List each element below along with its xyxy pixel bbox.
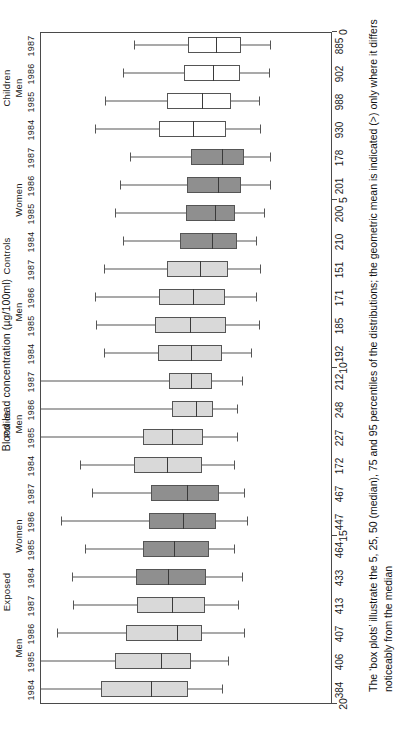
category-label-year: 1984	[26, 456, 36, 477]
whisker-cap-upper	[73, 601, 74, 610]
category-label-year: 1984	[26, 568, 36, 589]
sample-size-label: 413	[334, 598, 345, 615]
median-line	[174, 541, 175, 557]
category-label-year: 1987	[26, 148, 36, 169]
whisker-cap-lower	[264, 209, 265, 218]
sample-size-row: 3844064074134334644474671722272482121921…	[334, 32, 354, 704]
box-plot	[41, 31, 331, 59]
whisker-cap-lower	[234, 461, 235, 470]
box-iqr	[167, 261, 228, 277]
box-iqr	[186, 205, 236, 221]
whisker-cap-upper	[96, 321, 97, 330]
whisker-cap-lower	[244, 629, 245, 638]
sample-size-label: 212	[334, 374, 345, 391]
sample-size-label: 902	[334, 66, 345, 83]
category-label-year: 1986	[26, 176, 36, 197]
sample-size-label: 185	[334, 318, 345, 335]
whisker-cap-lower	[247, 517, 248, 526]
whisker-cap-lower	[242, 377, 243, 386]
median-line	[151, 681, 152, 697]
group-label-secondary: Women	[13, 183, 24, 217]
whisker-cap-lower	[270, 181, 271, 190]
category-label-year: 1984	[26, 120, 36, 141]
box-plot	[41, 283, 331, 311]
whisker-cap-lower	[260, 265, 261, 274]
box-plot	[41, 311, 331, 339]
figure-page: Blood lead concentration (µg/100ml) 1984…	[0, 0, 410, 730]
median-line	[172, 429, 173, 445]
category-label-year: 1987	[26, 484, 36, 505]
sample-size-label: 201	[334, 178, 345, 195]
box-iqr	[158, 345, 222, 361]
box-plot	[41, 199, 331, 227]
whisker-cap-lower	[251, 349, 252, 358]
sample-size-label: 384	[334, 682, 345, 699]
box-iqr	[191, 149, 244, 165]
whisker-cap-upper	[95, 125, 96, 134]
box-iqr	[136, 569, 206, 585]
sample-size-label: 172	[334, 458, 345, 475]
whisker-cap-upper	[120, 181, 121, 190]
box-iqr	[180, 233, 237, 249]
whisker-cap-upper	[61, 517, 62, 526]
median-line	[200, 261, 201, 277]
whisker-cap-upper	[85, 545, 86, 554]
box-plot	[41, 143, 331, 171]
box-plot	[41, 507, 331, 535]
whisker-cap-lower	[270, 153, 271, 162]
box-plot	[41, 339, 331, 367]
box-iqr	[151, 485, 220, 501]
whisker-cap-upper	[123, 237, 124, 246]
group-label-secondary: Men	[13, 78, 24, 97]
category-label-year: 1986	[26, 400, 36, 421]
sample-size-label: 171	[334, 290, 345, 307]
box-iqr	[172, 401, 213, 417]
whisker-cap-lower	[269, 69, 270, 78]
sample-size-label: 464	[334, 542, 345, 559]
box-iqr	[137, 597, 204, 613]
median-line	[212, 233, 213, 249]
plot-area	[40, 32, 332, 704]
category-axis: 1984198519861987198419851986198719841985…	[0, 32, 40, 704]
whisker-cap-upper	[80, 461, 81, 470]
box-iqr	[134, 457, 201, 473]
sample-size-label: 151	[334, 262, 345, 279]
whisker-cap-lower	[238, 601, 239, 610]
sample-size-label: 200	[334, 206, 345, 223]
box-plot	[41, 451, 331, 479]
category-label-year: 1987	[26, 596, 36, 617]
group-label-secondary: Women	[13, 519, 24, 553]
sample-size-label: 407	[334, 626, 345, 643]
category-label-year: 1987	[26, 260, 36, 281]
median-line	[172, 597, 173, 613]
whisker-cap-upper	[57, 629, 58, 638]
sample-size-label: 178	[334, 150, 345, 167]
group-label-secondary: Men	[13, 414, 24, 433]
group-label-primary: Exposed	[1, 573, 12, 611]
box-plot	[41, 563, 331, 591]
whisker-cap-lower	[237, 405, 238, 414]
category-label-year: 1987	[26, 372, 36, 393]
whisker-cap-upper	[104, 349, 105, 358]
group-label-primary: Children	[1, 70, 12, 107]
box-plot	[41, 479, 331, 507]
median-line	[196, 401, 197, 417]
whisker-cap-lower	[228, 657, 229, 666]
box-plot	[41, 535, 331, 563]
category-label-year: 1986	[26, 288, 36, 309]
sample-size-label: 227	[334, 430, 345, 447]
whisker-cap-upper	[92, 489, 93, 498]
whisker-cap-lower	[244, 489, 245, 498]
whisker-cap-lower	[256, 237, 257, 246]
sample-size-label: 192	[334, 346, 345, 363]
box-iqr	[184, 65, 239, 81]
sample-size-label: 885	[334, 38, 345, 55]
category-label-year: 1986	[26, 624, 36, 645]
median-line	[222, 149, 223, 165]
category-label-year: 1984	[26, 680, 36, 701]
median-line	[218, 177, 219, 193]
whisker-cap-upper	[72, 573, 73, 582]
sample-size-label: 447	[334, 514, 345, 531]
whisker-cap-upper	[115, 209, 116, 218]
sample-size-label: 930	[334, 122, 345, 139]
